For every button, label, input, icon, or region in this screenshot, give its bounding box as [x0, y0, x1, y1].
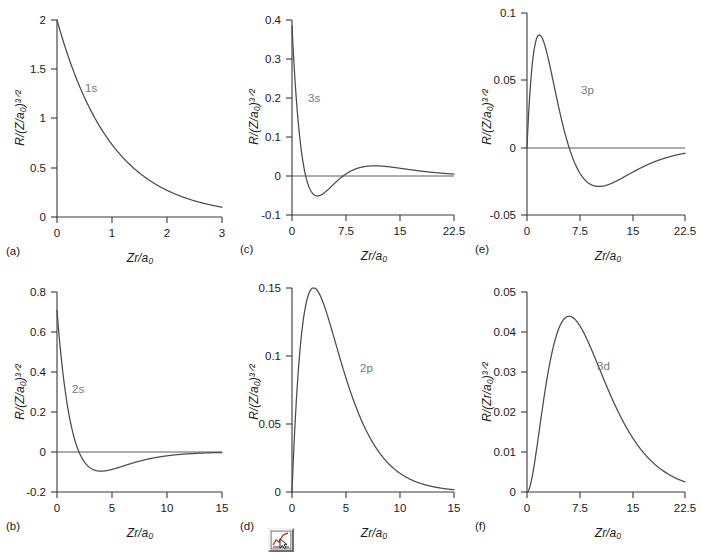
panel-c-ylabel: R/(Z/a₀)³ᐟ²	[247, 88, 261, 144]
ytick-label: 0.6	[30, 326, 46, 338]
panel-a-axis-lines	[57, 20, 222, 217]
ytick-label: 0	[275, 486, 281, 498]
panel-d-letter: (d)	[240, 520, 254, 532]
panel-a-series-label: 1s	[85, 82, 97, 94]
panel-b-series-label: 2s	[72, 383, 84, 395]
panel-c-xlabel: Zr/a₀	[360, 249, 387, 263]
panel-e-axes: 0.1 0.05 0 -0.05 0 7.5 15 22.5	[490, 7, 696, 237]
xtick-label: 1	[109, 227, 115, 239]
panel-b-yticks: 0.8 0.6 0.4 0.2 0 -0.2	[26, 286, 57, 498]
panel-d-yticks: 0.15 0.1 0.05 0	[259, 282, 292, 498]
xtick-label: 22.5	[674, 225, 696, 237]
ytick-label: 0	[275, 170, 281, 182]
xtick-label: 15	[394, 225, 407, 237]
panel-f-ylabel: R/(Zr/a₀)³ᐟ²	[480, 361, 494, 421]
xtick-label: 10	[394, 502, 407, 514]
panel-b-plot: 0.8 0.6 0.4 0.2 0 -0.2 0 5 10 15	[0, 280, 240, 560]
panel-a: 2 1.5 1 0.5 0 0 1 2 3 1s	[0, 0, 240, 280]
ytick-label: -0.2	[26, 486, 46, 498]
ytick-label: 0.05	[259, 418, 281, 430]
ytick-label: 1.5	[30, 63, 46, 75]
xtick-label: 3	[219, 227, 225, 239]
panel-b-xlabel: Zr/a₀	[126, 526, 153, 540]
ytick-label: 0	[40, 211, 46, 223]
xtick-label: 22.5	[674, 502, 696, 514]
xtick-label: 0	[289, 502, 295, 514]
panel-a-xlabel: Zr/a₀	[126, 251, 153, 265]
panel-d: 0.15 0.1 0.05 0 0 5 10 15 2p Zr/a	[232, 280, 472, 560]
ytick-label: 0.02	[494, 406, 516, 418]
panel-f-yticks: 0.05 0.04 0.03 0.02 0.01 0	[494, 286, 527, 498]
panel-e-letter: (e)	[475, 243, 489, 255]
ytick-label: 0.01	[494, 446, 516, 458]
panel-f-plot: 0.05 0.04 0.03 0.02 0.01 0 0 7.5 15 22.5	[463, 280, 701, 560]
ytick-label: 0.03	[494, 366, 516, 378]
ytick-label: 0.2	[30, 406, 46, 418]
radial-wavefunctions-figure: 2 1.5 1 0.5 0 0 1 2 3 1s	[0, 0, 701, 560]
panel-a-axes: 2 1.5 1 0.5 0 0 1 2 3	[30, 14, 225, 239]
panel-e-curve	[527, 35, 685, 186]
xtick-label: 7.5	[572, 502, 588, 514]
panel-b-ylabel: R/(Z/a₀)³ᐟ²	[13, 363, 27, 419]
xtick-label: 7.5	[572, 225, 588, 237]
panel-f-axis-lines	[527, 292, 685, 492]
ytick-label: 0.05	[494, 286, 516, 298]
ytick-label: -0.1	[261, 209, 281, 221]
ytick-label: 0.1	[265, 350, 281, 362]
xtick-label: 0	[54, 227, 60, 239]
chart-icon[interactable]	[268, 528, 294, 552]
panel-b-xticks: 0 5 10 15	[54, 492, 229, 514]
panel-f-axes: 0.05 0.04 0.03 0.02 0.01 0 0 7.5 15 22.5	[494, 286, 697, 514]
panel-c-plot: 0.4 0.3 0.2 0.1 0 -0.1 0 7.5 15 22.5	[232, 0, 472, 280]
panel-a-plot: 2 1.5 1 0.5 0 0 1 2 3 1s	[0, 0, 240, 280]
ytick-label: 0.4	[30, 366, 47, 378]
ytick-label: 0.8	[30, 286, 46, 298]
xtick-label: 5	[109, 502, 115, 514]
panel-a-yticks: 2 1.5 1 0.5 0	[30, 14, 57, 223]
xtick-label: 0	[524, 225, 530, 237]
ytick-label: 1	[40, 112, 46, 124]
xtick-label: 0	[289, 225, 295, 237]
xtick-label: 10	[161, 502, 174, 514]
panel-e-plot: 0.1 0.05 0 -0.05 0 7.5 15 22.5	[463, 0, 701, 280]
xtick-label: 2	[164, 227, 170, 239]
ytick-label: 2	[40, 14, 46, 26]
panel-c-axes: 0.4 0.3 0.2 0.1 0 -0.1 0 7.5 15 22.5	[261, 14, 465, 237]
panel-d-axis-lines	[292, 288, 454, 492]
panel-b-letter: (b)	[6, 520, 20, 532]
panel-e: 0.1 0.05 0 -0.05 0 7.5 15 22.5	[463, 0, 701, 280]
panel-c-letter: (c)	[240, 243, 254, 255]
ytick-label: 0	[510, 486, 516, 498]
ytick-label: 0.1	[265, 131, 281, 143]
xtick-label: 0	[54, 502, 60, 514]
ytick-label: 0	[40, 446, 46, 458]
panel-d-series-label: 2p	[360, 362, 373, 374]
panel-c-series-label: 3s	[308, 92, 320, 104]
panel-e-series-label: 3p	[581, 84, 594, 96]
panel-b: 0.8 0.6 0.4 0.2 0 -0.2 0 5 10 15	[0, 280, 240, 560]
xtick-label: 0	[524, 502, 530, 514]
ytick-label: 0	[510, 142, 516, 154]
panel-f: 0.05 0.04 0.03 0.02 0.01 0 0 7.5 15 22.5	[463, 280, 701, 560]
panel-c-curve	[292, 26, 454, 196]
panel-d-plot: 0.15 0.1 0.05 0 0 5 10 15 2p Zr/a	[232, 280, 472, 560]
ytick-label: 0.15	[259, 282, 281, 294]
ytick-label: 0.04	[494, 326, 517, 338]
panel-f-curve	[527, 316, 685, 492]
panel-e-xlabel: Zr/a₀	[594, 249, 621, 263]
panel-a-letter: (a)	[6, 245, 20, 257]
panel-a-ylabel: R/(Z/a₀)³ᐟ²	[13, 89, 27, 145]
panel-d-curve	[292, 288, 454, 492]
panel-e-yticks: 0.1 0.05 0 -0.05	[490, 7, 527, 221]
panel-a-xticks: 0 1 2 3	[54, 217, 225, 239]
xtick-label: 15	[627, 502, 640, 514]
panel-f-xlabel: Zr/a₀	[594, 526, 621, 540]
panel-f-letter: (f)	[475, 520, 486, 532]
xtick-label: 15	[448, 502, 461, 514]
ytick-label: 0.2	[265, 92, 281, 104]
panel-d-xticks: 0 5 10 15	[289, 492, 461, 514]
xtick-label: 7.5	[338, 225, 354, 237]
panel-c-xticks: 0 7.5 15 22.5	[289, 215, 465, 237]
xtick-label: 15	[627, 225, 640, 237]
panel-f-series-label: 3d	[597, 360, 610, 372]
